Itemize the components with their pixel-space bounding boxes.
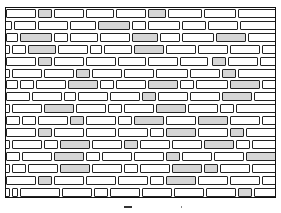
brick-row (6, 8, 275, 20)
shaded-brick (38, 9, 52, 18)
brick (124, 69, 154, 78)
shaded-brick (124, 140, 138, 149)
shaded-brick (166, 176, 196, 185)
brick (220, 164, 250, 173)
brick (86, 57, 116, 66)
shaded-brick (166, 128, 196, 137)
brick (36, 80, 66, 89)
shaded-brick (60, 140, 90, 149)
shaded-brick (222, 69, 236, 78)
brick (262, 45, 276, 54)
brick (6, 92, 30, 101)
brick-row (6, 44, 275, 56)
brick (110, 92, 140, 101)
brick (182, 33, 214, 42)
brick (150, 176, 164, 185)
brick-row (6, 127, 275, 139)
brick (166, 45, 196, 54)
brick (6, 128, 36, 137)
shaded-brick (172, 164, 202, 173)
brick (100, 33, 130, 42)
shaded-brick (38, 128, 52, 137)
brick (204, 9, 236, 18)
brick (180, 57, 208, 66)
brick (38, 21, 68, 30)
brick-row (6, 115, 275, 127)
brick (236, 140, 250, 149)
brick (236, 104, 276, 113)
brick (12, 140, 42, 149)
brick (124, 164, 138, 173)
shaded-brick (132, 33, 158, 42)
shaded-brick (142, 92, 156, 101)
brick (58, 45, 88, 54)
shaded-brick (20, 33, 52, 42)
brick (158, 92, 188, 101)
shaded-brick (222, 92, 252, 101)
brick-row (6, 103, 275, 115)
brick (44, 69, 74, 78)
brick (100, 80, 114, 89)
shaded-brick (156, 104, 186, 113)
shaded-brick (230, 80, 260, 89)
brick (252, 164, 276, 173)
brick (148, 21, 180, 30)
brick-row (6, 20, 275, 32)
brick (190, 69, 220, 78)
brick (38, 116, 68, 125)
brick (260, 57, 276, 66)
brick (118, 128, 148, 137)
brick (118, 176, 148, 185)
brick (5, 69, 10, 78)
brick (148, 57, 178, 66)
brick (230, 176, 260, 185)
brick (160, 33, 180, 42)
brick (6, 152, 20, 161)
caption-dot (181, 206, 182, 208)
brick (32, 92, 62, 101)
brick (5, 104, 10, 113)
brick (198, 128, 228, 137)
brick (168, 9, 202, 18)
brick (262, 116, 276, 125)
brick (64, 92, 76, 101)
brick (86, 152, 100, 161)
brick (116, 9, 146, 18)
brick (238, 69, 276, 78)
shaded-brick (238, 188, 252, 197)
brick (54, 176, 84, 185)
brick (22, 152, 52, 161)
brick-row (6, 187, 275, 199)
brick (5, 164, 10, 173)
brick (214, 152, 244, 161)
brick (172, 140, 202, 149)
shaded-brick (230, 128, 244, 137)
brick (5, 21, 12, 30)
brick (22, 116, 36, 125)
brick (76, 104, 106, 113)
brick (134, 152, 164, 161)
brick (54, 9, 84, 18)
brick (102, 152, 132, 161)
brick-row (6, 175, 275, 187)
brick (6, 57, 36, 66)
brick (166, 116, 196, 125)
brick (182, 21, 206, 30)
shaded-brick (68, 80, 98, 89)
brick (156, 69, 188, 78)
brick (20, 80, 34, 89)
brick (54, 128, 84, 137)
brick (86, 116, 116, 125)
brick-row (6, 151, 275, 163)
brick (190, 92, 220, 101)
shaded-brick (134, 116, 164, 125)
brick (124, 104, 154, 113)
brick (182, 152, 212, 161)
brick (12, 45, 26, 54)
shaded-brick (38, 176, 52, 185)
brick (228, 57, 258, 66)
brick (116, 80, 146, 89)
brick (230, 45, 260, 54)
shaded-brick (54, 152, 84, 161)
brick (94, 188, 108, 197)
